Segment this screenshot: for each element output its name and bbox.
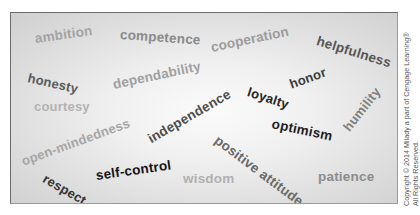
word-competence: competence — [120, 28, 202, 47]
word-self-control: self-control — [95, 159, 172, 183]
copyright-line-2: All Rights Reserved. — [411, 32, 420, 206]
word-courtesy: courtesy — [34, 100, 90, 113]
word-helpfulness: helpfulness — [315, 35, 393, 70]
word-humility: humility — [341, 84, 383, 133]
word-optimism: optimism — [271, 117, 334, 143]
word-honesty: honesty — [27, 71, 80, 95]
word-cloud-figure: ambitioncompetencecooperationhelpfulness… — [0, 0, 420, 215]
word-cloud-board: ambitioncompetencecooperationhelpfulness… — [10, 12, 398, 204]
word-respect: respect — [41, 171, 89, 204]
word-ambition: ambition — [34, 24, 93, 45]
word-loyalty: loyalty — [246, 85, 291, 111]
word-honor: honor — [288, 65, 328, 90]
copyright-notice: Copyright © 2014 Milady a part of Cengag… — [402, 32, 420, 206]
word-cooperation: cooperation — [210, 25, 291, 55]
word-open-mindedness: open-mindedness — [20, 116, 132, 167]
word-positive-attitude: positive attitude — [212, 134, 306, 204]
word-wisdom: wisdom — [183, 172, 234, 186]
word-patience: patience — [318, 170, 374, 184]
copyright-line-1: Copyright © 2014 Milady a part of Cengag… — [402, 32, 411, 206]
word-dependability: dependability — [112, 60, 202, 92]
